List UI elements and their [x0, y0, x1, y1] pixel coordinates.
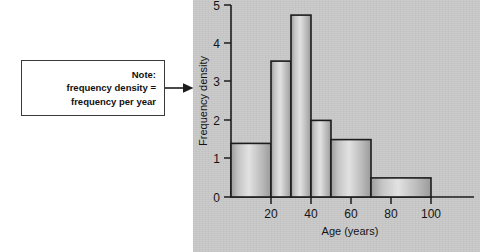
arrow-right-icon: [165, 82, 194, 94]
y-tick-label-4: 4: [213, 37, 220, 51]
x-tick-label-100: 100: [421, 207, 441, 221]
x-tick-label-60: 60: [344, 207, 358, 221]
x-axis-label: Age (years): [322, 225, 379, 237]
histogram-bars: [231, 15, 431, 197]
x-tick-label-80: 80: [384, 207, 398, 221]
x-axis-ticks: [271, 197, 431, 204]
bar-40-50: [311, 120, 331, 197]
bar-70-100: [371, 178, 431, 197]
note-callout-box: Note: frequency density = frequency per …: [21, 60, 165, 116]
bar-50-70: [331, 140, 371, 197]
y-axis-ticks: [224, 5, 231, 197]
bar-30-40: [291, 15, 311, 197]
y-axis-label: Frequency density: [197, 56, 209, 146]
histogram-plot: 5 4 3 2 1 0 Frequency density: [193, 0, 480, 252]
histogram-chart-panel: 5 4 3 2 1 0 Frequency density: [193, 0, 480, 252]
x-tick-label-20: 20: [264, 207, 278, 221]
note-line-3: frequency per year: [71, 95, 156, 109]
y-tick-label-1: 1: [213, 152, 220, 166]
note-line-2: frequency density =: [67, 81, 157, 95]
note-line-1: Note:: [132, 68, 156, 82]
bar-0-20: [231, 143, 271, 197]
y-tick-label-3: 3: [213, 75, 220, 89]
bar-20-30: [271, 61, 291, 197]
y-tick-label-2: 2: [213, 114, 220, 128]
y-tick-label-0: 0: [213, 191, 220, 205]
page-root: Note: frequency density = frequency per …: [0, 0, 480, 252]
x-tick-label-40: 40: [304, 207, 318, 221]
y-tick-label-5: 5: [213, 0, 220, 13]
